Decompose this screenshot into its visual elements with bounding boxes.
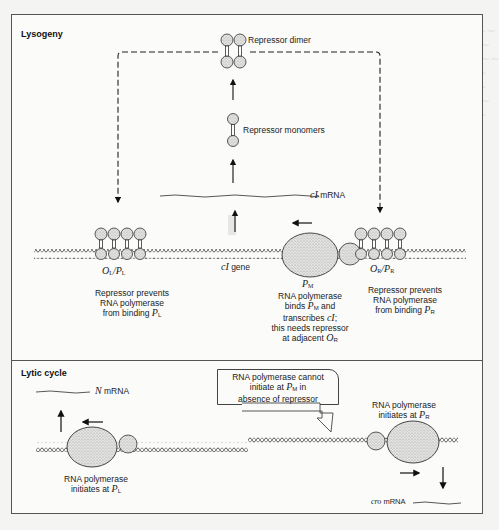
rna-polymerase-pm-icon	[282, 233, 338, 277]
callout-pointer-icon	[242, 403, 333, 432]
caption-pm-polymerase: RNA polymerase binds PM and transcribes …	[262, 291, 358, 345]
label-or-pr: OR/PR	[370, 264, 394, 276]
caption-pl-polymerase: RNA polymerase initiates at PL	[56, 474, 136, 496]
cro-mrna-strand	[413, 502, 461, 504]
caption-or-repressor: Repressor prevents RNA polymerase from b…	[355, 285, 455, 317]
label-ol-pl: OL/PL	[102, 266, 125, 278]
rna-polymerase-pr-icon	[387, 421, 439, 463]
label-repressor-monomers: Repressor monomers	[243, 125, 325, 135]
feedback-dashed-path-left	[118, 52, 218, 202]
polymerase-subunit-icon	[367, 432, 385, 450]
label-pm: PM	[302, 279, 313, 291]
repressor-monomer-icon	[228, 114, 239, 147]
label-cro-mrna: cro mRNA	[371, 497, 406, 507]
label-ci-mrna: cI mRNA	[310, 190, 345, 200]
caption-ol-repressor: Repressor prevents RNA polymerase from b…	[82, 288, 182, 320]
label-repressor-dimer: Repressor dimer	[248, 35, 311, 45]
label-ci-gene: cI gene	[221, 262, 250, 272]
polymerase-subunit-icon	[119, 435, 137, 453]
label-n-mrna: N mRNA	[95, 386, 129, 396]
repressor-dimer-icon	[221, 34, 246, 68]
caption-pr-polymerase: RNA polymerase initiates at PR	[364, 400, 444, 422]
n-mrna-strand	[36, 391, 90, 393]
ci-mrna-strand	[160, 195, 319, 197]
callout-pm-text: RNA polymerase cannot initiate at PM in …	[219, 372, 337, 404]
rna-polymerase-pl-icon	[67, 427, 117, 467]
